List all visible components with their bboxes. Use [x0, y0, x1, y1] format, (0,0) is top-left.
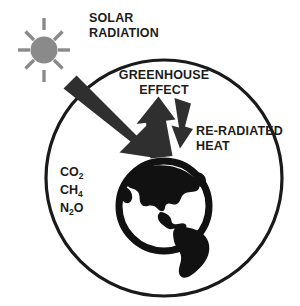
greenhouse-effect-label: GREENHOUSE EFFECT: [118, 68, 210, 98]
re-radiated-heat-label: RE-RADIATED HEAT: [196, 124, 283, 154]
solar-radiation-line2: RADIATION: [89, 26, 159, 40]
n2o-subscript: 2: [69, 207, 74, 217]
greenhouse-effect-line1: GREENHOUSE: [119, 68, 209, 82]
co2-subscript: 2: [79, 171, 84, 181]
n2o-tail: O: [74, 201, 84, 215]
sun-icon: [31, 37, 58, 64]
solar-radiation-label: SOLAR RADIATION: [89, 11, 159, 41]
co2-base: CO: [60, 165, 79, 179]
ch4-base: CH: [60, 183, 78, 197]
greenhouse-effect-line2: EFFECT: [139, 83, 189, 97]
greenhouse-effect-diagram: SOLAR RADIATION GREENHOUSE EFFECT RE-RAD…: [0, 0, 300, 306]
gas-item-ch4: CH4: [60, 182, 84, 200]
re-radiated-heat-line2: HEAT: [196, 139, 230, 153]
greenhouse-gas-list: CO2 CH4 N2O: [60, 164, 84, 218]
solar-radiation-line1: SOLAR: [89, 11, 134, 25]
n2o-base: N: [60, 201, 69, 215]
gas-item-co2: CO2: [60, 164, 84, 182]
re-radiated-heat-arrow: [172, 98, 194, 149]
ch4-subscript: 4: [78, 189, 83, 199]
re-radiated-heat-line1: RE-RADIATED: [196, 124, 283, 138]
gas-item-n2o: N2O: [60, 200, 84, 218]
